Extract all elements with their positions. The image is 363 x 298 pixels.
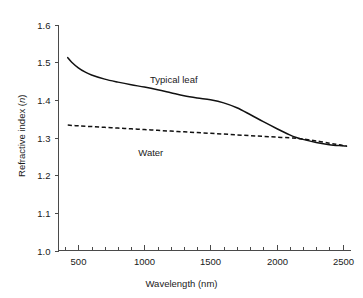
series-label-water: Water xyxy=(138,148,163,158)
refractive-index-chart: 1.01.11.21.31.41.51.6 500100015002000250… xyxy=(0,0,363,298)
y-axis-ticks xyxy=(55,26,59,252)
series-label-typical-leaf: Typical leaf xyxy=(150,75,198,85)
y-axis-title-symbol: n xyxy=(16,98,27,103)
y-tick-label: 1.3 xyxy=(25,134,51,144)
x-tick-label: 2000 xyxy=(258,257,298,267)
y-axis-title-text: Refractive index xyxy=(16,109,27,177)
y-axis-title-paren-close: ) xyxy=(16,95,27,98)
x-axis-minor-ticks xyxy=(66,247,330,251)
x-axis-title: Wavelength (nm) xyxy=(0,279,363,289)
axes xyxy=(59,25,351,251)
y-tick-label: 1.5 xyxy=(25,58,51,68)
y-axis-title-paren-open: ( xyxy=(16,103,27,109)
y-tick-label: 1.4 xyxy=(25,96,51,106)
y-tick-label: 1.2 xyxy=(25,171,51,181)
x-tick-label: 1000 xyxy=(125,257,165,267)
series-line-water xyxy=(68,125,347,146)
y-tick-label: 1.1 xyxy=(25,209,51,219)
y-tick-label: 1.6 xyxy=(25,21,51,31)
plot-area xyxy=(0,0,363,298)
y-tick-label: 1.0 xyxy=(25,247,51,257)
x-tick-label: 1500 xyxy=(191,257,231,267)
x-tick-label: 2500 xyxy=(324,257,363,267)
y-axis-title: Refractive index (n) xyxy=(17,36,27,236)
x-tick-label: 500 xyxy=(59,257,99,267)
